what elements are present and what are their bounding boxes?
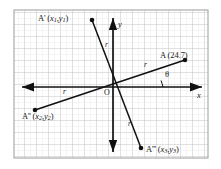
r-label-upper: r xyxy=(105,41,108,49)
x-axis-label: x xyxy=(197,91,201,100)
point-label-A-prime: A' (x1,y1) xyxy=(38,14,68,24)
r-label-ray-A-double-prime: r xyxy=(63,88,66,96)
point-marker-A-prime xyxy=(90,18,95,23)
figure-canvas: x y O θ r r r r A (24.7) A' (x1,y1) A'' … xyxy=(0,0,221,169)
point-label-A-coords: (24.7) xyxy=(168,50,188,60)
origin-label: O xyxy=(104,89,110,97)
point-label-A-name: A xyxy=(160,50,166,60)
theta-label: θ xyxy=(165,70,169,79)
label-A3-close: ) xyxy=(176,144,179,154)
coordinate-plane-figure xyxy=(0,0,221,169)
label-A2-marks: '' xyxy=(28,111,30,121)
point-label-A: A (24.7) xyxy=(160,51,188,60)
r-label-ray-A-triple-prime: r xyxy=(128,120,131,128)
label-A3-marks: ''' xyxy=(152,144,156,154)
r-label-ray-A: r xyxy=(144,61,147,69)
label-A-prime-close: ) xyxy=(65,13,68,23)
point-marker-A-triple-prime xyxy=(139,146,144,151)
y-axis-label: y xyxy=(118,20,122,29)
point-label-A-double-prime: A'' (x2,y2) xyxy=(22,112,53,122)
label-A2-close: ) xyxy=(51,111,54,121)
point-label-A-triple-prime: A''' (x3,y3) xyxy=(146,145,179,155)
label-A-prime-marks: ' xyxy=(44,13,45,23)
